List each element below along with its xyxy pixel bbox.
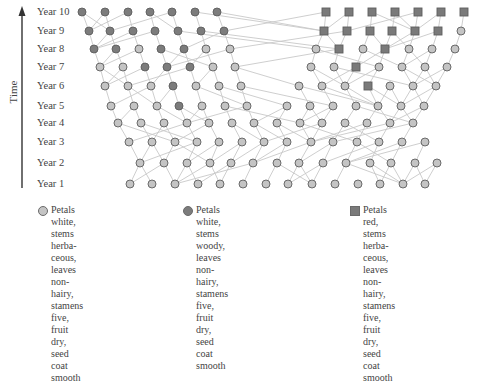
white-herbaceous-circle-node <box>243 102 251 110</box>
white-herbaceous-circle-node <box>135 45 143 53</box>
white-herbaceous-circle-node <box>237 82 245 90</box>
white-woody-circle-node <box>106 27 114 35</box>
year-label: Year 9 <box>37 25 64 37</box>
red-herbaceous-square-node <box>368 8 376 16</box>
white-herbaceous-circle-node <box>114 119 122 127</box>
white-herbaceous-circle-node <box>420 102 428 110</box>
year-label: Year 3 <box>37 136 64 148</box>
white-herbaceous-circle-node <box>295 159 303 167</box>
white-herbaceous-circle-node <box>209 63 217 71</box>
red-herbaceous-square-node <box>391 8 399 16</box>
white-herbaceous-circle-node <box>433 159 441 167</box>
white-herbaceous-circle-node <box>312 45 320 53</box>
white-herbaceous-circle-node <box>249 159 257 167</box>
white-herbaceous-circle-node <box>307 138 315 146</box>
white-herbaceous-circle-node <box>331 180 339 188</box>
white-herbaceous-circle-node <box>148 180 156 188</box>
parentage-edge <box>187 106 247 123</box>
legend-text: Petals white, stems woody, leaves non-ha… <box>196 204 228 372</box>
white-herbaceous-circle-node <box>341 82 349 90</box>
white-herbaceous-circle-node <box>443 63 451 71</box>
year-label: Year 8 <box>37 43 64 55</box>
white-herbaceous-circle-node <box>137 119 145 127</box>
white-herbaceous-circle-node <box>330 63 338 71</box>
red-herbaceous-square-node <box>366 27 374 35</box>
white-herbaceous-circle-node <box>273 159 281 167</box>
white-woody-circle-node <box>168 8 176 16</box>
white-herbaceous-circle-node <box>421 63 429 71</box>
white-herbaceous-circle-node <box>238 138 246 146</box>
arrow-up-icon <box>19 6 26 16</box>
white-herbaceous-circle-node <box>398 138 406 146</box>
white-herbaceous-circle-node <box>183 119 191 127</box>
parentage-edge <box>128 67 190 86</box>
white-herbaceous-circle-node <box>228 119 236 127</box>
white-herbaceous-circle-node <box>386 119 394 127</box>
legend-text: Petals red, stems herba- ceous, leaves n… <box>363 204 395 384</box>
white-woody-circle-node <box>175 102 183 110</box>
white-woody-circle-node <box>197 27 205 35</box>
red-herbaceous-square-node <box>335 45 343 53</box>
white-herbaceous-circle-node <box>160 159 168 167</box>
white-herbaceous-circle-node <box>295 82 303 90</box>
white-herbaceous-circle-node <box>119 63 127 71</box>
white-herbaceous-circle-node <box>107 102 115 110</box>
white-herbaceous-circle-node <box>329 138 337 146</box>
parentage-edges <box>82 12 464 184</box>
white-herbaceous-circle-node <box>136 159 144 167</box>
white-herbaceous-circle-node <box>202 45 210 53</box>
white-herbaceous-circle-node <box>206 159 214 167</box>
white-herbaceous-circle-node <box>193 138 201 146</box>
year-label: Year 6 <box>37 80 64 92</box>
legend: Petals white, stems herba- ceous, leaves… <box>0 204 480 264</box>
white-herbaceous-circle-node <box>125 138 133 146</box>
white-woody-circle-node <box>146 8 154 16</box>
white-woody-circle-node <box>101 8 109 16</box>
white-herbaceous-circle-node <box>457 27 465 35</box>
white-herbaceous-circle-node <box>153 102 161 110</box>
white-woody-circle-node <box>85 27 93 35</box>
white-herbaceous-circle-node <box>409 119 417 127</box>
white-herbaceous-circle-node <box>363 119 371 127</box>
parentage-edge <box>217 12 324 31</box>
year-label: Year 1 <box>37 178 64 190</box>
white-herbaceous-circle-node <box>451 45 459 53</box>
white-woody-circle-node <box>151 27 159 35</box>
white-herbaceous-circle-node <box>308 180 316 188</box>
red-herbaceous-square-node <box>345 8 353 16</box>
parentage-edge <box>231 142 264 163</box>
white-woody-circle-node <box>157 45 165 53</box>
white-herbaceous-circle-node <box>171 138 179 146</box>
white-herbaceous-circle-node <box>239 180 247 188</box>
light-circle-icon <box>38 206 48 216</box>
white-herbaceous-circle-node <box>386 82 394 90</box>
white-herbaceous-circle-node <box>160 119 168 127</box>
parentage-edge <box>175 163 210 184</box>
white-herbaceous-circle-node <box>283 102 291 110</box>
white-herbaceous-circle-node <box>376 180 384 188</box>
white-herbaceous-circle-node <box>359 45 367 53</box>
white-herbaceous-circle-node <box>250 119 258 127</box>
white-herbaceous-circle-node <box>354 180 362 188</box>
white-woody-circle-node <box>191 8 199 16</box>
white-herbaceous-circle-node <box>124 82 132 90</box>
red-herbaceous-square-node <box>414 8 422 16</box>
white-herbaceous-circle-node <box>96 63 104 71</box>
parentage-edge <box>235 49 339 67</box>
red-herbaceous-square-node <box>460 8 468 16</box>
white-herbaceous-circle-node <box>192 82 200 90</box>
white-herbaceous-circle-node <box>171 180 179 188</box>
red-herbaceous-square-node <box>352 63 360 71</box>
white-herbaceous-circle-node <box>409 82 417 90</box>
white-woody-circle-node <box>141 63 149 71</box>
white-herbaceous-circle-node <box>387 159 395 167</box>
white-herbaceous-circle-node <box>306 102 314 110</box>
year-label: Year 5 <box>37 100 64 112</box>
parentage-edge <box>401 86 436 106</box>
white-herbaceous-circle-node <box>183 159 191 167</box>
year-label: Year 7 <box>37 61 64 73</box>
red-herbaceous-square-node <box>381 45 389 53</box>
white-herbaceous-circle-node <box>397 102 405 110</box>
white-herbaceous-circle-node <box>215 138 223 146</box>
red-herbaceous-square-node <box>437 8 445 16</box>
